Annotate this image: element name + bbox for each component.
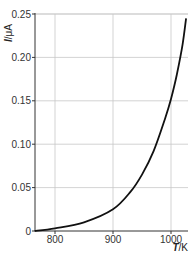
y-tick-label: 0.20 xyxy=(12,52,32,63)
x-tick-labels: 8009001000 xyxy=(47,234,183,245)
chart: 00.050.100.150.200.25 8009001000 I/μA T/… xyxy=(0,0,192,254)
y-tick-label: 0.05 xyxy=(12,182,32,193)
y-tick-label: 0.10 xyxy=(12,139,32,150)
y-tick-label: 0.25 xyxy=(12,9,32,20)
y-tick-label: 0.15 xyxy=(12,95,32,106)
x-axis-label: T/K xyxy=(172,242,188,253)
y-tick-labels: 00.050.100.150.200.25 xyxy=(12,9,32,237)
data-curve xyxy=(35,18,186,231)
x-tick-label: 800 xyxy=(47,234,64,245)
grid-lines xyxy=(32,14,188,234)
y-axis-label: I/μA xyxy=(3,24,14,42)
x-tick-label: 900 xyxy=(105,234,122,245)
y-tick-label: 0 xyxy=(25,226,31,237)
